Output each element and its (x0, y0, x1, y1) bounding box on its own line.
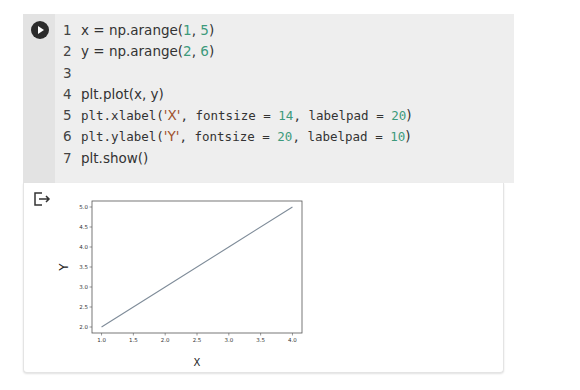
code-line: 4plt.plot(x, y) (63, 84, 412, 105)
x-tick-label: 2.5 (193, 337, 202, 343)
code-line: 2y = np.arange(2, 6) (63, 41, 412, 62)
y-tick-label: 3.5 (79, 264, 88, 270)
code-token: x = np.arange( (81, 22, 183, 38)
x-tick-label: 3.0 (224, 337, 233, 343)
code-token: plt.ylabel( (81, 129, 164, 144)
x-tick-label: 1.5 (129, 337, 138, 343)
y-axis-label: Y (57, 263, 71, 272)
code-token: 6 (200, 43, 209, 59)
code-token: ) (209, 22, 214, 38)
code-token: , labelpad = (292, 129, 390, 144)
code-token: 20 (391, 108, 406, 123)
y-tick-label: 2.5 (79, 304, 88, 310)
line-number: 7 (63, 148, 81, 169)
code-line: 6plt.ylabel('Y', fontsize = 20, labelpad… (63, 126, 412, 147)
line-number: 2 (63, 41, 81, 62)
code-token: , fontsize = (179, 129, 277, 144)
code-line: 3 (63, 63, 412, 84)
x-tick-label: 3.5 (256, 337, 265, 343)
code-token: 1 (183, 22, 192, 38)
code-token: 5 (200, 22, 209, 38)
cell-gutter (23, 14, 55, 183)
run-cell-button[interactable] (31, 21, 49, 39)
code-cell[interactable]: 1x = np.arange(1, 5)2y = np.arange(2, 6)… (23, 14, 514, 183)
x-axis-label: X (194, 357, 201, 368)
code-token: 10 (390, 129, 405, 144)
code-token: 'X' (164, 107, 181, 123)
code-token: ) (209, 43, 214, 59)
code-editor[interactable]: 1x = np.arange(1, 5)2y = np.arange(2, 6)… (63, 20, 412, 169)
code-line: 7plt.show() (63, 148, 412, 169)
y-tick-label: 4.0 (79, 244, 88, 250)
y-tick-label: 5.0 (79, 204, 88, 210)
code-token: y = np.arange( (81, 43, 183, 59)
code-token: 2 (183, 43, 192, 59)
code-token: plt.show() (81, 150, 148, 166)
code-token: 14 (278, 108, 293, 123)
code-token: 20 (277, 129, 292, 144)
code-token: ) (406, 107, 411, 123)
line-number: 6 (63, 126, 81, 147)
line-chart: 1.01.52.02.53.03.54.02.02.53.03.54.04.55… (24, 183, 503, 372)
code-token: ) (405, 128, 410, 144)
code-token: , labelpad = (293, 108, 391, 123)
code-line: 1x = np.arange(1, 5) (63, 20, 412, 41)
code-token: , (192, 22, 201, 38)
code-token: , (192, 43, 201, 59)
code-token: plt.plot(x, y) (81, 86, 164, 102)
output-cell: 1.01.52.02.53.03.54.02.02.53.03.54.04.55… (23, 183, 504, 373)
x-tick-label: 2.0 (161, 337, 170, 343)
y-tick-label: 2.0 (79, 324, 88, 330)
code-token: 'Y' (164, 128, 180, 144)
x-tick-label: 4.0 (288, 337, 297, 343)
y-tick-label: 3.0 (79, 284, 88, 290)
code-token: plt.xlabel( (81, 108, 164, 123)
code-token: , fontsize = (180, 108, 278, 123)
line-number: 3 (63, 63, 81, 84)
line-number: 1 (63, 20, 81, 41)
line-number: 4 (63, 84, 81, 105)
code-line: 5plt.xlabel('X', fontsize = 14, labelpad… (63, 105, 412, 126)
x-tick-label: 1.0 (97, 337, 106, 343)
line-number: 5 (63, 105, 81, 126)
y-tick-label: 4.5 (79, 224, 88, 230)
